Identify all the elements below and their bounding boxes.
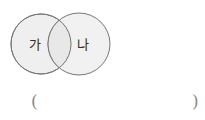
open-paren: ( — [31, 88, 38, 114]
close-paren: ) — [192, 88, 199, 114]
answer-blank-field[interactable] — [42, 88, 190, 114]
venn-label-na: 나 — [77, 37, 89, 52]
venn-diagram-page: 가 나 ( ) — [0, 0, 205, 120]
venn-diagram: 가 나 — [0, 0, 125, 86]
answer-blank-row: ( ) — [0, 88, 205, 118]
venn-label-ga: 가 — [29, 37, 41, 52]
